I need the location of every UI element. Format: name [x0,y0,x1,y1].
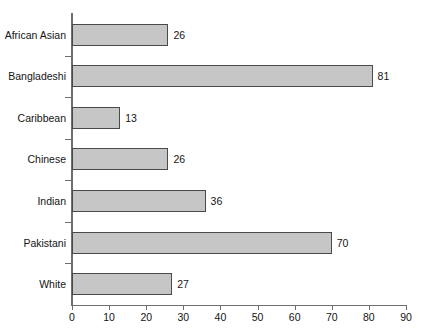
y-axis-tick [65,56,72,57]
category-label-wrap: White [0,263,66,305]
category-label: African Asian [5,30,66,41]
bar-row: 81 [72,56,406,98]
x-axis-line [71,305,407,306]
x-axis-tick-label: 90 [400,312,412,323]
x-axis-tick [406,305,407,310]
y-axis-tick [65,263,72,264]
x-axis-tick [183,305,184,310]
x-axis-tick [258,305,259,310]
category-label-wrap: Indian [0,180,66,222]
x-axis-tick-label: 0 [69,312,75,323]
x-axis-tick-label: 60 [289,312,301,323]
bar-value-label: 13 [125,113,137,124]
bar [72,190,206,212]
x-axis-tick-label: 40 [215,312,227,323]
bar-value-label: 36 [211,196,223,207]
x-axis-tick [72,305,73,310]
bar [72,148,168,170]
bar-row: 26 [72,139,406,181]
category-label: Indian [37,196,66,207]
x-axis-tick-label: 50 [252,312,264,323]
bar-chart: African AsianBangladeshiCaribbeanChinese… [0,0,423,333]
bar-value-label: 26 [173,30,185,41]
category-label: Chinese [27,154,66,165]
bar-value-label: 26 [173,154,185,165]
bar-row: 13 [72,97,406,139]
x-axis-tick [295,305,296,310]
x-axis-tick-label: 30 [177,312,189,323]
category-label-wrap: Bangladeshi [0,56,66,98]
category-label: Pakistani [23,237,66,248]
x-axis-tick [332,305,333,310]
x-axis-tick-label: 20 [140,312,152,323]
plot-area: 26811326367027 [72,14,406,305]
bar-row: 26 [72,14,406,56]
x-axis-tick [369,305,370,310]
x-axis-tick-label: 80 [363,312,375,323]
y-axis-tick [65,180,72,181]
x-axis-tick-label: 10 [103,312,115,323]
x-axis-tick [109,305,110,310]
category-label-wrap: Pakistani [0,222,66,264]
category-label-wrap: Caribbean [0,97,66,139]
bar-value-label: 27 [177,279,189,290]
x-axis-tick [146,305,147,310]
bar-value-label: 70 [337,237,349,248]
bar-row: 27 [72,263,406,305]
category-label: White [39,279,66,290]
bar [72,232,332,254]
category-label-wrap: African Asian [0,14,66,56]
bar [72,273,172,295]
bar [72,65,373,87]
category-label: Caribbean [18,113,66,124]
bar [72,24,168,46]
bar [72,107,120,129]
category-label-wrap: Chinese [0,139,66,181]
x-axis-tick-label: 70 [326,312,338,323]
bar-row: 36 [72,180,406,222]
y-axis-tick [65,139,72,140]
y-axis-tick [65,97,72,98]
bar-value-label: 81 [378,71,390,82]
bar-row: 70 [72,222,406,264]
x-axis-tick [220,305,221,310]
y-axis-tick [65,222,72,223]
category-label: Bangladeshi [8,71,66,82]
